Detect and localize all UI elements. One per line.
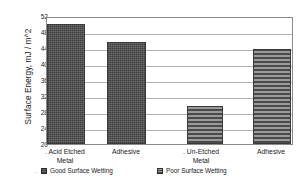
bar-2[interactable] — [187, 106, 223, 144]
legend-lead-dot: . — [35, 168, 37, 174]
legend-item-good-surface-wetting[interactable]: Good Surface Wetting — [41, 167, 113, 174]
bar-1[interactable] — [107, 42, 146, 144]
legend-item-poor-surface-wetting[interactable]: Poor Surface Wetting — [157, 167, 227, 174]
plot-area — [46, 17, 293, 145]
x-label-line1: Un-Etched — [187, 148, 219, 155]
x-label-bullet: . — [45, 148, 47, 155]
x-label-bullet: . — [183, 148, 185, 155]
legend-swatch-striped-icon — [157, 168, 163, 174]
x-label-acid-etched-metal: . Acid Etched Metal — [32, 148, 98, 165]
bar-chart: Surface Energy, mJ / m^2 52 48 44 40 36 … — [0, 0, 299, 185]
legend-label: Good Surface Wetting — [50, 167, 113, 174]
x-label-line2: Metal — [57, 157, 74, 164]
x-label-line1: Adhesive — [112, 148, 140, 155]
x-label-line2: Metal — [193, 157, 210, 164]
legend-label: Poor Surface Wetting — [166, 167, 227, 174]
legend-swatch-solid-icon — [41, 168, 47, 174]
x-label-adhesive-2: Adhesive — [243, 148, 299, 157]
x-label-line1: Adhesive — [257, 148, 285, 155]
bar-0[interactable] — [47, 24, 85, 144]
x-label-adhesive-1: Adhesive — [98, 148, 154, 157]
x-label-un-etched-metal: . Un-Etched Metal — [168, 148, 234, 165]
x-label-line1: Acid Etched — [49, 148, 85, 155]
bar-3[interactable] — [253, 49, 291, 144]
